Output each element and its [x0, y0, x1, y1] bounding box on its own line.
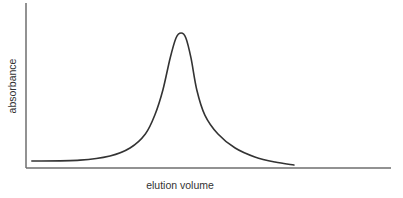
chromatogram-chart: elution volume absorbance	[0, 0, 403, 198]
series-layer	[32, 33, 294, 165]
y-axis-label: absorbance	[6, 58, 18, 113]
series-line-elution-peak	[32, 33, 294, 165]
x-axis-label: elution volume	[146, 179, 214, 191]
